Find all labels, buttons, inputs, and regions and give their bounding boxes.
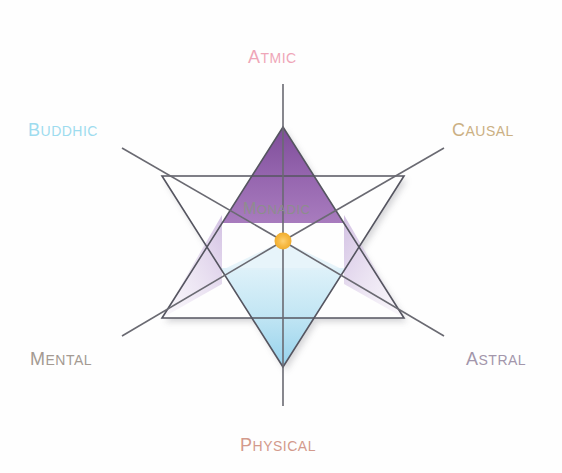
label-mental: Mental (30, 344, 92, 370)
label-buddhic: Buddhic (28, 115, 98, 141)
label-causal: Causal (452, 115, 514, 141)
label-monadic: Monadic (243, 195, 310, 218)
diagram-canvas: Atmic Buddhic Causal Mental Astral Physi… (0, 0, 562, 473)
monadic-center-dot (275, 233, 292, 250)
label-physical: Physical (240, 430, 316, 456)
label-astral: Astral (466, 344, 526, 370)
hexagram-figure (0, 0, 562, 473)
label-atmic: Atmic (248, 42, 297, 68)
